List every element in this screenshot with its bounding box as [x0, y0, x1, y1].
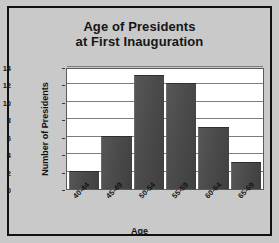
- chart-title-line-1: Age of Presidents: [83, 19, 195, 34]
- y-axis-label-wrap: Number of Presidents: [29, 68, 45, 190]
- y-axis-tick-label: 2: [0, 168, 11, 177]
- x-axis-ticks: 40-4445-4950-5455-5960-6465-69: [66, 192, 264, 226]
- chart-title-line-2: at First Inauguration: [9, 35, 270, 50]
- y-axis-tick-label: 4: [0, 151, 11, 160]
- x-axis-tick: 50-54: [132, 192, 165, 226]
- y-axis-label: Number of Presidents: [40, 69, 50, 189]
- y-axis-tick-label: 6: [0, 133, 11, 142]
- y-axis-tick-mark: [62, 138, 65, 139]
- y-axis-tick-label: 0: [0, 186, 11, 195]
- y-axis-tick-label: 12: [0, 81, 11, 90]
- gridline: [67, 66, 263, 67]
- chart-frame: Age of Presidents at First Inauguration …: [7, 6, 272, 236]
- x-axis-tick: 60-64: [198, 192, 231, 226]
- y-axis-tick-mark: [62, 120, 65, 121]
- y-axis-tick-mark: [62, 190, 65, 191]
- y-axis-tick-mark: [62, 68, 65, 69]
- y-axis-tick-mark: [62, 155, 65, 156]
- y-axis-tick-mark: [62, 103, 65, 104]
- bar: [166, 83, 196, 189]
- bar: [134, 75, 164, 189]
- x-axis-tick: 55-59: [165, 192, 198, 226]
- y-axis-tick-label: 14: [0, 64, 11, 73]
- chart-title: Age of Presidents at First Inauguration: [9, 20, 270, 49]
- y-axis-tick-mark: [62, 85, 65, 86]
- x-axis-tick: 65-69: [231, 192, 264, 226]
- bar-series: [67, 69, 263, 189]
- y-axis-tick-label: 10: [0, 98, 11, 107]
- x-axis-tick: 45-49: [99, 192, 132, 226]
- x-axis-label: Age: [9, 226, 270, 236]
- bar: [198, 127, 228, 189]
- plot-area: [66, 68, 264, 190]
- y-axis-tick-mark: [62, 173, 65, 174]
- x-axis-tick: 40-44: [66, 192, 99, 226]
- chart-figure: Age of Presidents at First Inauguration …: [0, 0, 279, 243]
- y-axis-tick-label: 8: [0, 116, 11, 125]
